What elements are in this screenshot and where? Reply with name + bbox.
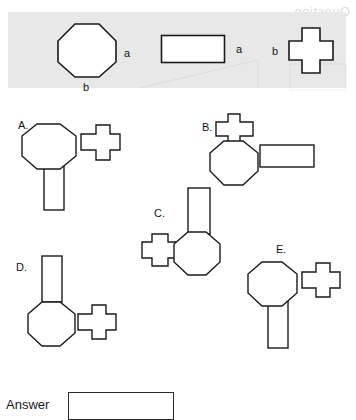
option-d-figure (14, 252, 132, 358)
legend-label-cross-b: b (272, 46, 278, 57)
legend-label-rectangle-a: a (236, 44, 242, 55)
answer-label: Answer (6, 398, 49, 411)
option-a-figure (14, 114, 130, 214)
legend-label-octagon-b: b (83, 82, 89, 93)
option-c[interactable]: C. (128, 186, 246, 286)
legend-item-octagon: a b (56, 20, 166, 84)
octagon-shape (56, 22, 118, 80)
option-e[interactable]: E. (246, 242, 356, 354)
answer-input-box[interactable] (68, 392, 174, 420)
legend-label-octagon-a: a (124, 48, 130, 59)
legend-item-rectangle: a (160, 34, 270, 74)
legend-banner: a b a b (8, 12, 346, 88)
option-b[interactable]: B. (198, 112, 326, 192)
legend-item-cross: b (272, 24, 352, 80)
option-b-figure (198, 112, 326, 192)
option-e-figure (246, 242, 356, 354)
cross-shape (286, 26, 336, 76)
option-c-figure (128, 186, 246, 286)
option-d[interactable]: D. (14, 252, 132, 358)
answer-row: Answer (6, 392, 346, 418)
rectangle-shape (160, 34, 226, 64)
option-a[interactable]: A. (14, 114, 130, 214)
